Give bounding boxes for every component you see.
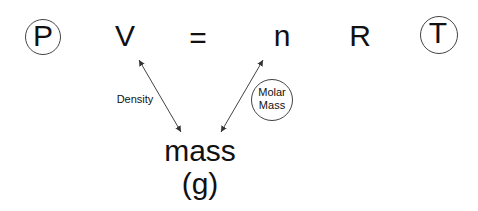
density-label: Density: [110, 93, 160, 106]
mass-label: mass: [150, 135, 250, 167]
molar-mass-label-line1: Molar: [251, 86, 293, 99]
molar-mass-label-line2: Mass: [251, 99, 293, 112]
mass-unit: (g): [150, 168, 250, 200]
